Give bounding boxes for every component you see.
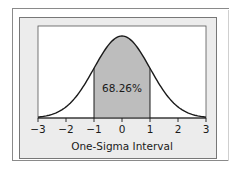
x-tick-label: −3 — [30, 123, 45, 135]
x-tick-label: 3 — [203, 123, 210, 135]
x-axis-ticks: −3−2−10123 — [30, 118, 209, 135]
x-tick-label: −1 — [86, 123, 101, 135]
x-tick-label: 2 — [175, 123, 182, 135]
chart-figure: −3−2−10123 68.26% One-Sigma Interval — [0, 0, 231, 175]
x-tick-label: 0 — [119, 123, 126, 135]
x-tick-label: 1 — [147, 123, 154, 135]
normal-curve-plot: −3−2−10123 68.26% One-Sigma Interval — [0, 0, 231, 175]
shaded-area-label: 68.26% — [102, 82, 142, 94]
x-tick-label: −2 — [58, 123, 73, 135]
x-axis-label: One-Sigma Interval — [71, 140, 173, 152]
